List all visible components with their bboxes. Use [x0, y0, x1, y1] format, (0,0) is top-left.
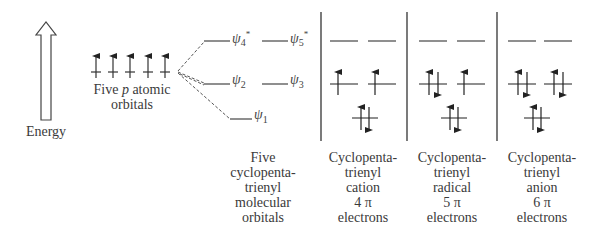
caption-radical: Cyclopenta-trienylradical5 πelectrons: [407, 150, 497, 225]
atomic-orbitals-label: Five p atomic orbitals: [82, 82, 182, 112]
caption-molecular-orbitals: Fivecyclopenta-trienylmolecularorbitals: [218, 150, 308, 225]
cation-electrons: [338, 72, 375, 130]
psi5-label: ψ5*: [290, 29, 308, 48]
atomic-orbitals: [91, 56, 170, 78]
mo-diagram: ψ4* ψ5* ψ2 ψ3 ψ1 Energy Five p atomic or…: [0, 0, 599, 238]
psi2-label: ψ2: [232, 72, 246, 90]
anion-electrons: [518, 72, 563, 130]
energy-arrow-icon: [36, 22, 56, 120]
psi4-label: ψ4*: [232, 29, 250, 48]
energy-label: Energy: [20, 124, 72, 139]
radical-electrons: [429, 72, 464, 130]
caption-anion: Cyclopenta-trienylanion6 πelectrons: [497, 150, 587, 225]
column-dividers: [321, 12, 497, 141]
cation-levels: [330, 41, 396, 118]
psi1-label: ψ1: [254, 107, 268, 125]
psi3-label: ψ3: [290, 72, 304, 90]
caption-cation: Cyclopenta-trienylcation4 πelectrons: [318, 150, 408, 225]
correlation-lines: [178, 42, 230, 119]
